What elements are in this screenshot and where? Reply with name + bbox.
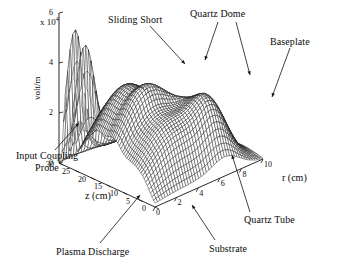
- z-tick-20: 20: [78, 175, 86, 184]
- z-tick-30: 30: [46, 160, 54, 169]
- z-tick-0: 0: [142, 204, 146, 213]
- leader-sliding-short: [150, 26, 185, 64]
- r-tick-2: 2: [178, 198, 182, 207]
- annotation-substrate: Substrate: [209, 243, 247, 254]
- leader-quartz-tube: [232, 155, 250, 212]
- z-tick-5: 5: [126, 197, 130, 206]
- leader-substrate: [192, 205, 215, 240]
- y-axis-title: volt/m: [32, 76, 42, 100]
- z-axis-title: z (cm): [85, 190, 111, 201]
- leader-baseplate: [272, 48, 290, 97]
- r-tick-0: 0: [156, 208, 160, 217]
- z-tick-10: 10: [110, 189, 118, 198]
- r-axis-title: r (cm): [282, 172, 307, 183]
- leader-quartz-dome-2: [236, 22, 250, 75]
- figure-3d-surface-plot: x 104 volt/m z (cm) r (cm) Sliding Short…: [0, 0, 345, 269]
- leader-plasma-discharge: [100, 195, 140, 243]
- annotation-baseplate: Baseplate: [270, 36, 310, 47]
- r-tick-10: 10: [264, 160, 272, 169]
- leader-quartz-dome-arrowhead: [205, 56, 208, 60]
- z-tick-25: 25: [62, 167, 70, 176]
- y-tick-4: 4: [49, 58, 53, 67]
- annotation-quartz-tube: Quartz Tube: [244, 214, 295, 225]
- annotation-plasma-discharge: Plasma Discharge: [56, 246, 129, 257]
- r-tick-4: 4: [199, 189, 203, 198]
- annotation-quartz-dome: Quartz Dome: [190, 8, 245, 19]
- y-axis-exponent: x 104: [40, 16, 59, 27]
- y-tick-2: 2: [49, 108, 53, 117]
- z-tick-15: 15: [94, 182, 102, 191]
- leader-substrate-arrowhead: [192, 205, 196, 209]
- leader-baseplate-arrowhead: [272, 93, 275, 97]
- r-tick-8: 8: [242, 170, 246, 179]
- leader-quartz-dome: [205, 22, 218, 60]
- annotation-sliding-short: Sliding Short: [108, 14, 162, 25]
- y-tick-6: 6: [49, 8, 53, 17]
- r-tick-6: 6: [221, 179, 225, 188]
